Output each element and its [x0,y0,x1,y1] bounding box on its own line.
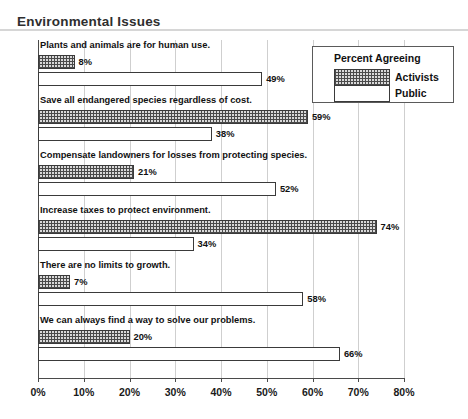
x-axis-tick [130,378,131,382]
bar-value-label: 49% [266,72,285,86]
x-axis-tick-label: 0% [30,386,45,398]
category-label: We can always find a way to solve our pr… [40,315,255,326]
legend: Percent Agreeing Activists Public [312,46,454,103]
x-axis-tick [404,378,405,382]
category-label: Compensate landowners for losses from pr… [40,150,307,161]
category-label: Plants and animals are for human use. [40,40,210,51]
bar-value-label: 8% [79,55,92,69]
x-axis-tick-label: 80% [393,386,414,398]
bar-public [38,127,212,141]
category-label: Increase taxes to protect environment. [40,205,211,216]
x-axis-tick [84,378,85,382]
x-axis-tick-label: 70% [348,386,369,398]
bar-activists [38,55,75,69]
x-axis-tick [267,378,268,382]
x-axis-tick-label: 50% [256,386,277,398]
bar-value-label: 66% [344,347,363,361]
bar-public [38,347,340,361]
legend-label-public: Public [395,86,427,101]
legend-swatch-activists [334,69,390,86]
bar-value-label: 59% [312,110,331,124]
bar-value-label: 74% [381,220,400,234]
x-axis-tick [221,378,222,382]
x-axis-tick-label: 20% [119,386,140,398]
legend-label-activists: Activists [395,70,439,85]
x-axis-tick [175,378,176,382]
legend-swatch-public [334,85,390,102]
category-label: Save all endangered species regardless o… [40,95,252,106]
bar-activists [38,165,134,179]
bar-group: Increase taxes to protect environment.74… [38,205,404,260]
bar-activists [38,110,308,124]
title-divider [0,29,468,31]
x-axis-tick-label: 30% [165,386,186,398]
x-axis-tick-label: 60% [302,386,323,398]
bar-value-label: 38% [216,127,235,141]
bar-activists [38,275,70,289]
bar-value-label: 7% [74,275,87,289]
bar-public [38,182,276,196]
bar-group: Compensate landowners for losses from pr… [38,150,404,205]
bar-public [38,237,194,251]
bar-value-label: 20% [134,330,153,344]
bar-public [38,292,303,306]
bar-activists [38,330,130,344]
bar-value-label: 21% [138,165,157,179]
bar-group: There are no limits to growth.7%58% [38,260,404,315]
x-axis-tick [313,378,314,382]
x-axis-tick-label: 40% [210,386,231,398]
x-axis-tick-label: 10% [73,386,94,398]
category-label: There are no limits to growth. [40,260,170,271]
bar-public [38,72,262,86]
legend-item-activists: Activists [334,69,446,86]
bar-value-label: 52% [280,182,299,196]
bar-value-label: 58% [307,292,326,306]
bar-group: Save all endangered species regardless o… [38,95,404,150]
legend-item-public: Public [334,85,446,102]
bar-group: We can always find a way to solve our pr… [38,315,404,370]
x-axis-tick [38,378,39,382]
legend-title: Percent Agreeing [334,52,421,64]
bar-value-label: 34% [198,237,217,251]
bar-activists [38,220,377,234]
x-axis-tick [358,378,359,382]
